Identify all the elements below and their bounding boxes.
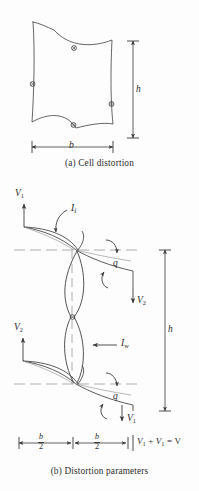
figure-drawing-layer <box>0 0 199 491</box>
v1-top-symbol: V <box>15 188 21 198</box>
v2-left-symbol: V <box>14 322 20 332</box>
halfwidth-left-denominator: 2 <box>38 443 44 451</box>
panel-b-caption: (b) Distortion parameters <box>0 466 199 476</box>
panel-b-q-bottom-label: q <box>113 392 118 402</box>
halfwidth-right-numerator: b <box>94 433 100 441</box>
panel-b-v2-right-label: V2 <box>137 296 146 306</box>
sum-term2-subscript: 1 <box>161 440 164 447</box>
panel-a-node-bottom <box>71 123 76 128</box>
panel-a-caption: (a) Cell distortion <box>0 158 199 168</box>
panel-a-width-label: b <box>69 141 74 151</box>
v1-top-subscript: 1 <box>21 192 24 199</box>
sum-equals-operator: = <box>167 436 172 446</box>
v2-left-subscript: 2 <box>20 326 23 333</box>
panel-b-v1-top-label: V1 <box>15 189 24 199</box>
panel-b-if-label: If <box>71 204 76 214</box>
panel-b-if-leader-arrow <box>56 210 67 232</box>
v2-right-symbol: V <box>137 295 143 305</box>
panel-a-height-label: h <box>136 85 141 95</box>
halfwidth-right-denominator: 2 <box>94 443 100 451</box>
v1-bottom-subscript: 1 <box>133 417 136 424</box>
v1-bottom-symbol: V <box>127 413 133 423</box>
sum-plus-operator: + <box>148 436 153 446</box>
panel-b-halfwidth-right-dimension <box>75 437 128 449</box>
sum-term1-symbol: V <box>137 436 143 446</box>
panel-b-halfwidth-right-label: b 2 <box>94 433 100 451</box>
panel-a-cell-outline <box>32 22 113 128</box>
iw-subscript: w <box>124 342 129 349</box>
panel-b-q-top-label: q <box>113 259 118 269</box>
panel-b-web-curve <box>65 251 84 383</box>
panel-b-q-top-rotation-arrow-upper <box>106 240 117 253</box>
panel-b-height-label: h <box>168 325 173 335</box>
panel-b-iw-label: Iw <box>121 339 129 349</box>
panel-b-lower-flange <box>23 361 133 411</box>
panel-b-q-bottom-rotation-arrow-lower <box>101 404 107 419</box>
figure-container: h b (a) Cell distortion V1 If q V2 V2 Iw… <box>0 0 199 491</box>
panel-a-node-top <box>72 46 77 51</box>
sum-term1-subscript: 1 <box>143 440 146 447</box>
halfwidth-left-numerator: b <box>38 433 44 441</box>
panel-b-halfwidth-left-label: b 2 <box>38 433 44 451</box>
if-subscript: f <box>74 207 76 214</box>
panel-b-halfwidth-left-dimension <box>19 437 73 449</box>
sum-result-symbol: V <box>175 436 182 446</box>
panel-b-v2-left-label: V2 <box>14 323 23 333</box>
panel-b-v1-bottom-label: V1 <box>127 414 136 424</box>
panel-b-q-top-rotation-arrow-lower <box>102 272 108 288</box>
v2-right-subscript: 2 <box>143 299 146 306</box>
panel-b-sum-equation: V1+V1=V <box>137 437 181 446</box>
